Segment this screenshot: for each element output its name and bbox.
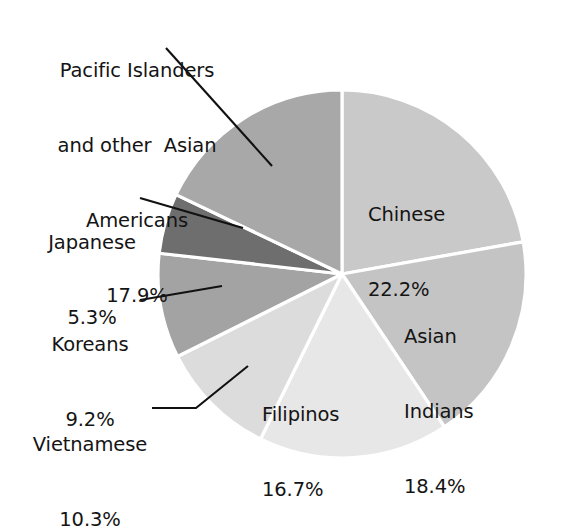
pie-slice-group: [158, 90, 526, 458]
slice-label-value: 10.3%: [6, 507, 174, 530]
